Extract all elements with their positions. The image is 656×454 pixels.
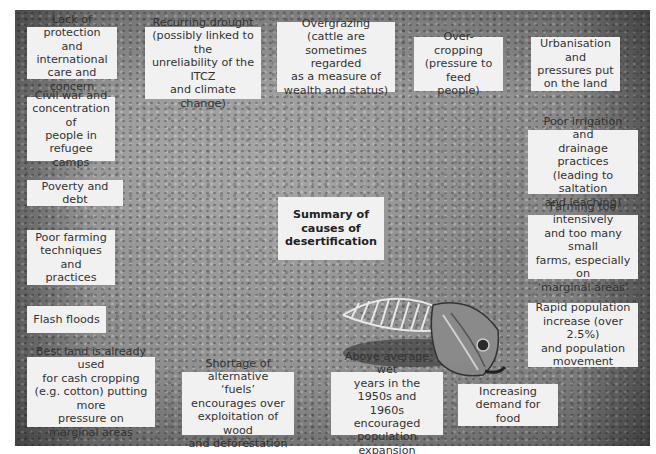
cause-rapid-population: Rapid population increase (over 2.5%) an… [528,303,638,367]
cause-recurring-drought: Recurring drought (possibly linked to th… [145,27,261,99]
cause-lack-of-protection: Lack of protection and international car… [27,27,117,79]
cause-urbanisation: Urbanisation and pressures put on the la… [531,37,620,91]
cause-alternative-fuels: Shortage of alternative ‘fuels’ encourag… [182,372,294,435]
cause-food-demand: Increasing demand for food [458,384,558,426]
cause-poverty-debt: Poverty and debt [27,180,123,206]
cause-wet-years: Above average wet years in the 1950s and… [331,372,443,435]
cause-civil-war: Civil war and concentration of people in… [27,97,115,161]
cause-poor-farming: Poor farming techniques and practices [27,230,115,285]
cause-over-cropping: Over-cropping (pressure to feed people) [414,37,503,91]
cause-cash-cropping: Best land is already used for cash cropp… [27,357,155,427]
cause-poor-irrigation: Poor irrigation and drainage practices (… [528,130,638,194]
summary-title: Summary of causes of desertification [278,197,384,260]
cause-farming-intensively: Farming too intensively and too many sma… [528,215,638,279]
cause-flash-floods: Flash floods [27,306,106,333]
cause-overgrazing: Overgrazing (cattle are sometimes regard… [277,22,395,92]
